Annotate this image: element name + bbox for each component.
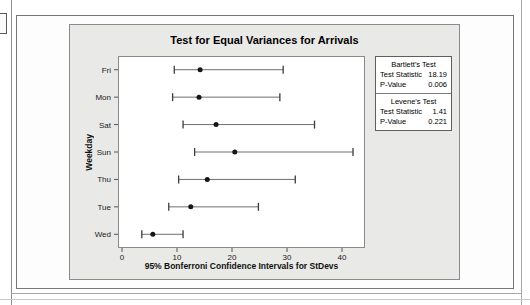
chart-panel[interactable]: Test for Equal Variances for Arrivals 01… [69,24,460,280]
stat-value: 18.19 [428,70,447,80]
bartlett-test-section: Bartlett's Test Test Statistic 18.19 P-V… [376,57,451,94]
bartlett-test-statistic-row: Test Statistic 18.19 [376,70,451,80]
stdev-dot [198,67,203,72]
levene-test-title: Levene's Test [376,96,451,107]
stat-label: P-Value [380,80,406,90]
stdev-dot [205,177,210,182]
stdev-dot [188,204,193,209]
category-label: Tue [98,203,112,212]
stat-value: 0.006 [428,80,447,90]
stdev-dot [214,122,219,127]
stdev-dot [150,232,155,237]
graph-window[interactable]: Test for Equal Variances for Arrivals 01… [16,15,514,289]
stats-panel: Bartlett's Test Test Statistic 18.19 P-V… [375,56,452,131]
chart-title: Test for Equal Variances for Arrivals [70,34,459,46]
x-axis-label: 95% Bonferroni Confidence Intervals for … [118,261,365,271]
stat-value: 0.221 [428,117,447,127]
levene-test-section: Levene's Test Test Statistic 1.41 P-Valu… [376,94,451,130]
app-frame-bottom-line [11,293,522,294]
y-axis-label: Weekday [82,56,95,248]
stdev-dot [197,95,202,100]
window-edge-fragment [0,13,7,34]
category-label: Mon [95,93,111,102]
app-frame-right-line [521,0,522,305]
stat-label: P-Value [380,117,406,127]
category-label: Thu [97,175,111,184]
app-frame-left-line [11,0,12,305]
bartlett-test-title: Bartlett's Test [376,59,451,70]
levene-pvalue-row: P-Value 0.221 [376,117,451,127]
levene-test-statistic-row: Test Statistic 1.41 [376,107,451,117]
bartlett-pvalue-row: P-Value 0.006 [376,80,451,90]
stat-label: Test Statistic [380,107,422,117]
category-label: Wed [95,230,111,239]
stat-value: 1.41 [432,107,447,117]
app-frame-outer-bottom-line [0,299,530,300]
stat-label: Test Statistic [380,70,422,80]
category-label: Fri [102,66,112,75]
screen: Test for Equal Variances for Arrivals 01… [0,0,530,305]
category-label: Sat [99,121,112,130]
plot-area: 010203040FriMonSatSunThuTueWed [118,56,365,248]
stdev-dot [232,150,237,155]
category-label: Sun [97,148,111,157]
